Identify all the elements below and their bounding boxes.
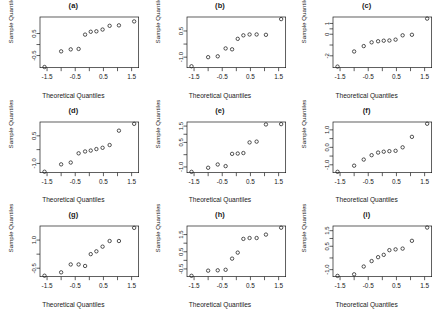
data-point [206, 166, 209, 169]
data-point [216, 55, 219, 58]
data-point [206, 55, 209, 58]
qq-panel-e: (e)Sample QuantilesTheoretical Quantiles… [147, 105, 294, 210]
data-point [89, 253, 92, 256]
data-point [101, 146, 104, 149]
x-tick-label: -0.5 [363, 282, 374, 289]
qq-panel-h: (h)Sample QuantilesTheoretical Quantiles… [147, 209, 294, 314]
y-tick-label: 0.5 [31, 29, 37, 38]
y-tick-label: -2 [324, 52, 330, 58]
data-point [230, 257, 233, 260]
y-tick-label: -1.0 [324, 264, 330, 275]
data-point [83, 33, 86, 36]
data-point [236, 151, 239, 154]
data-point [401, 247, 404, 250]
data-point [362, 158, 365, 161]
x-tick-label: 0.5 [99, 282, 108, 289]
y-tick-label: 1.5 [177, 121, 183, 130]
y-tick-label: 0.5 [31, 131, 37, 140]
x-tick-label: -1.5 [188, 73, 199, 80]
data-point [426, 17, 429, 20]
x-tick-label: 0.5 [392, 282, 401, 289]
data-point [411, 135, 414, 138]
data-point [241, 34, 244, 37]
data-point [382, 150, 385, 153]
x-tick-label: -0.5 [363, 177, 374, 184]
data-point [353, 164, 356, 167]
data-point [117, 129, 120, 132]
y-tick-label: -0.5 [31, 263, 37, 274]
x-tick-label: 1.5 [420, 177, 429, 184]
data-point [59, 162, 62, 165]
x-tick-label: -1.5 [42, 177, 53, 184]
data-point [108, 240, 111, 243]
x-tick-label: -1.5 [335, 177, 346, 184]
data-point [236, 251, 239, 254]
plot-frame [333, 17, 432, 68]
qq-panel-i: (i)Sample QuantilesTheoretical Quantiles… [293, 209, 440, 314]
data-point [353, 273, 356, 276]
x-tick-label: -0.5 [216, 177, 227, 184]
data-point [370, 260, 373, 263]
y-tick-label: -1.0 [324, 159, 330, 170]
y-tick-label: -1.0 [177, 161, 183, 172]
y-tick-label: 0.5 [177, 247, 183, 256]
data-point [89, 30, 92, 33]
data-point [108, 143, 111, 146]
y-tick-label: 0.5 [177, 137, 183, 146]
data-point [189, 170, 192, 173]
data-point [132, 122, 135, 125]
x-tick-label: 1.5 [127, 282, 136, 289]
x-tick-label: 1.5 [274, 177, 283, 184]
data-point [59, 271, 62, 274]
data-point [230, 152, 233, 155]
y-tick-label: 0.0 [324, 142, 330, 151]
x-tick-label: -0.5 [216, 282, 227, 289]
plot-frame [40, 122, 139, 173]
data-point [279, 226, 282, 229]
data-point [255, 237, 258, 240]
y-tick-label: -1.0 [177, 51, 183, 62]
data-point [95, 250, 98, 253]
data-point [377, 151, 380, 154]
data-point [394, 38, 397, 41]
x-tick-label: 1.5 [127, 177, 136, 184]
plot-area: -1.5-0.50.51.5-0.50.5 [0, 0, 147, 105]
data-point [224, 268, 227, 271]
data-point [388, 149, 391, 152]
data-point [59, 50, 62, 53]
data-point [388, 39, 391, 42]
data-point [362, 44, 365, 47]
data-point [83, 265, 86, 268]
data-point [336, 274, 339, 277]
data-point [370, 153, 373, 156]
data-point [394, 248, 397, 251]
x-tick-label: -1.5 [335, 73, 346, 80]
data-point [264, 233, 267, 236]
data-point [411, 33, 414, 36]
qq-panel-b: (b)Sample QuantilesTheoretical Quantiles… [147, 0, 294, 105]
y-tick-label: 1.0 [31, 236, 37, 245]
data-point [248, 237, 251, 240]
data-point [77, 263, 80, 266]
qq-panel-c: (c)Sample QuantilesTheoretical Quantiles… [293, 0, 440, 105]
qq-panel-d: (d)Sample QuantilesTheoretical Quantiles… [0, 105, 147, 210]
x-tick-label: 0.5 [392, 177, 401, 184]
data-point [248, 140, 251, 143]
data-point [382, 39, 385, 42]
y-tick-label: 1 [324, 21, 330, 25]
data-point [69, 263, 72, 266]
y-tick-label: -0.5 [31, 50, 37, 61]
x-tick-label: -0.5 [70, 73, 81, 80]
y-tick-label: 0.5 [177, 26, 183, 35]
data-point [401, 145, 404, 148]
y-tick-label: 0 [324, 32, 330, 36]
y-tick-label: 0.5 [324, 242, 330, 251]
qq-panel-g: (g)Sample QuantilesTheoretical Quantiles… [0, 209, 147, 314]
x-tick-label: 0.5 [99, 177, 108, 184]
data-point [77, 151, 80, 154]
plot-area: -1.5-0.50.51.5-1.00.01.0 [293, 105, 440, 210]
data-point [264, 122, 267, 125]
data-point [117, 24, 120, 27]
x-tick-label: -0.5 [70, 282, 81, 289]
data-point [255, 33, 258, 36]
